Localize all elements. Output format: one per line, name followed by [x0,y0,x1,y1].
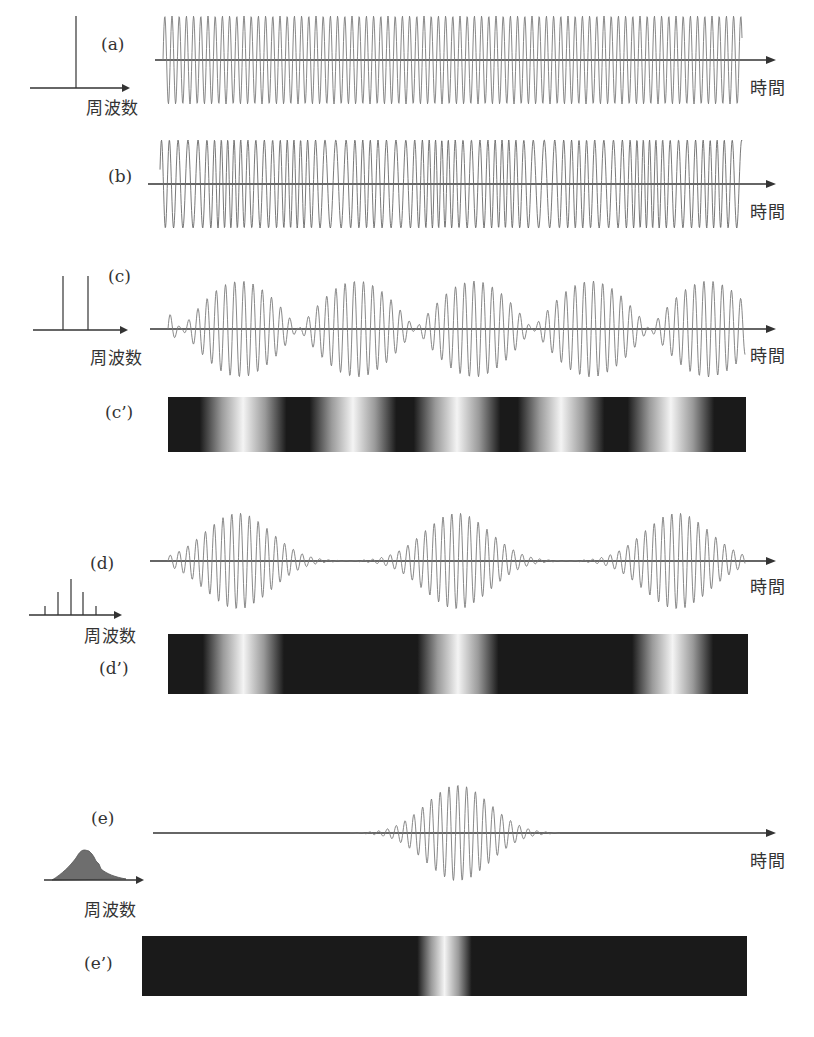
panel-e-graphics [0,0,814,1037]
panel-label-e-prime: (e’) [84,953,113,973]
intensity-pattern-e [142,936,747,996]
frequency-spectrum-e [44,850,144,884]
panel-label-e: (e) [91,808,114,828]
frequency-axis-label-e: 周波数 [84,896,137,921]
time-axis-label-e: 時間 [750,847,785,872]
